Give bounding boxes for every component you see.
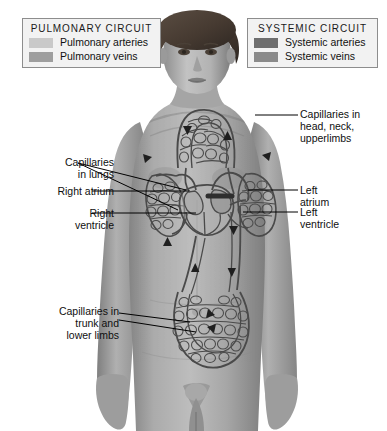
legend-pulmonary-title: PULMONARY CIRCUIT xyxy=(29,23,154,34)
swatch-systemic-arteries xyxy=(254,38,278,48)
label-right-atrium: Right atrium xyxy=(8,185,114,197)
legend-label-pulmonary-arteries: Pulmonary arteries xyxy=(60,37,148,48)
left-hand xyxy=(96,374,129,430)
legend-row-systemic-veins: Systemic veins xyxy=(254,51,371,62)
legend-systemic-circuit: SYSTEMIC CIRCUIT Systemic arteries Syste… xyxy=(247,18,378,68)
label-left-ventricle: Left ventricle xyxy=(300,206,380,230)
swatch-pulmonary-veins xyxy=(29,52,53,62)
legend-row-systemic-arteries: Systemic arteries xyxy=(254,37,371,48)
legend-row-pulmonary-arteries: Pulmonary arteries xyxy=(29,37,154,48)
figure-canvas: PULMONARY CIRCUIT Pulmonary arteries Pul… xyxy=(0,0,387,431)
label-right-ventricle: Right ventricle xyxy=(8,207,114,231)
label-capillaries-in-lungs: Capillaries in lungs xyxy=(8,156,114,180)
legend-row-pulmonary-veins: Pulmonary veins xyxy=(29,51,154,62)
right-hand xyxy=(265,374,298,430)
swatch-systemic-veins xyxy=(254,52,278,62)
legend-pulmonary-circuit: PULMONARY CIRCUIT Pulmonary arteries Pul… xyxy=(22,18,161,68)
legend-systemic-title: SYSTEMIC CIRCUIT xyxy=(254,23,371,34)
legend-label-systemic-arteries: Systemic arteries xyxy=(285,37,366,48)
label-capillaries-head-neck-upperlimbs: Capillaries in head, neck, upperlimbs xyxy=(300,108,386,145)
label-capillaries-trunk-lower-limbs: Capillaries in trunk and lower limbs xyxy=(4,305,119,342)
label-left-atrium: Left atrium xyxy=(300,184,380,208)
legend-label-pulmonary-veins: Pulmonary veins xyxy=(60,51,138,62)
legend-label-systemic-veins: Systemic veins xyxy=(285,51,355,62)
swatch-pulmonary-arteries xyxy=(29,38,53,48)
